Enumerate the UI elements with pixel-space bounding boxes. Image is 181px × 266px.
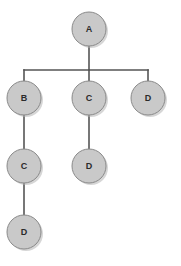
- tree-node-c-level1[interactable]: C: [72, 81, 108, 117]
- tree-node-c-level2[interactable]: C: [7, 149, 43, 185]
- tree-node-d-level1[interactable]: D: [131, 81, 167, 117]
- node-circle[interactable]: [72, 149, 106, 183]
- node-circle[interactable]: [7, 149, 41, 183]
- node-circle[interactable]: [7, 215, 41, 249]
- tree-diagram-svg: A B C D C: [0, 0, 181, 266]
- tree-node-b[interactable]: B: [7, 81, 43, 117]
- node-circle[interactable]: [72, 81, 106, 115]
- edge-group: [24, 46, 148, 215]
- node-circle[interactable]: [72, 12, 106, 46]
- tree-node-d-level2[interactable]: D: [72, 149, 108, 185]
- tree-node-d-level3[interactable]: D: [7, 215, 43, 251]
- node-group: A B C D C: [7, 12, 167, 251]
- node-circle[interactable]: [7, 81, 41, 115]
- tree-node-a[interactable]: A: [72, 12, 108, 48]
- node-circle[interactable]: [131, 81, 165, 115]
- tree-diagram-canvas: A B C D C: [0, 0, 181, 266]
